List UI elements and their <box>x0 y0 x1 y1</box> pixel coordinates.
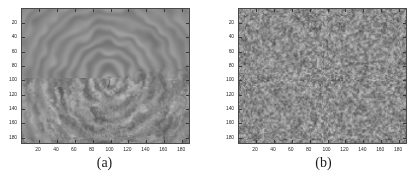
y-tick-mark-right <box>403 80 406 81</box>
y-tick-mark-right <box>403 37 406 38</box>
x-tick-mark <box>345 140 346 143</box>
y-tick-label: 100 <box>9 77 17 82</box>
x-tick-mark-top <box>363 9 364 12</box>
x-tick-mark <box>381 140 382 143</box>
y-tick-mark-right <box>403 138 406 139</box>
x-tick-label: 140 <box>141 146 149 152</box>
y-tick-mark <box>239 95 242 96</box>
x-tick-mark-top <box>111 9 112 12</box>
y-tick-label: 40 <box>12 34 17 39</box>
x-tick-mark <box>328 140 329 143</box>
x-tick-label: 40 <box>53 146 58 152</box>
y-tick-mark-right <box>186 80 189 81</box>
y-tick-mark <box>22 138 25 139</box>
x-tick-mark <box>146 140 147 143</box>
x-tick-mark <box>111 140 112 143</box>
x-tick-mark-top <box>128 9 129 12</box>
x-tick-mark <box>75 140 76 143</box>
x-tick-mark <box>128 140 129 143</box>
x-tick-label: 100 <box>105 146 113 152</box>
y-tick-mark <box>22 52 25 53</box>
x-tick-mark-top <box>274 9 275 12</box>
x-tick-label: 60 <box>71 146 76 152</box>
y-tick-mark <box>239 52 242 53</box>
x-tick-label: 120 <box>123 146 131 152</box>
x-tick-mark-top <box>93 9 94 12</box>
y-tick-mark-right <box>403 66 406 67</box>
y-tick-mark <box>22 23 25 24</box>
y-tick-label: 120 <box>226 91 234 96</box>
x-tick-mark <box>39 140 40 143</box>
y-tick-mark-right <box>186 95 189 96</box>
figure-root: 20406080100120140160180 2040608010012014… <box>0 0 418 181</box>
y-tick-label: 40 <box>229 34 234 39</box>
x-tick-mark <box>310 140 311 143</box>
panel-b: 20406080100120140160180 2040608010012014… <box>209 0 418 181</box>
y-tick-mark <box>239 109 242 110</box>
x-tick-mark-top <box>57 9 58 12</box>
y-tick-label: 80 <box>12 62 17 67</box>
y-tick-mark <box>22 123 25 124</box>
y-tick-mark-right <box>186 23 189 24</box>
x-tick-label: 80 <box>306 146 311 152</box>
y-axis-labels-b: 20406080100120140160180 <box>217 8 236 144</box>
y-tick-mark <box>239 66 242 67</box>
y-tick-mark <box>239 23 242 24</box>
texture-image-a <box>22 9 189 143</box>
panel-caption-a: (a) <box>0 154 209 172</box>
x-tick-mark <box>57 140 58 143</box>
y-tick-mark-right <box>403 123 406 124</box>
y-tick-label: 60 <box>229 48 234 53</box>
y-tick-mark-right <box>186 123 189 124</box>
x-tick-mark-top <box>39 9 40 12</box>
x-tick-label: 60 <box>288 146 293 152</box>
x-tick-label: 40 <box>270 146 275 152</box>
y-tick-label: 140 <box>226 106 234 111</box>
x-tick-mark-top <box>399 9 400 12</box>
y-tick-label: 180 <box>226 134 234 139</box>
x-tick-mark <box>93 140 94 143</box>
y-tick-mark-right <box>186 66 189 67</box>
y-tick-label: 160 <box>9 120 17 125</box>
x-tick-label: 20 <box>35 146 40 152</box>
panel-caption-b: (b) <box>219 154 418 172</box>
y-tick-label: 160 <box>226 120 234 125</box>
x-tick-mark-top <box>292 9 293 12</box>
x-tick-mark-top <box>182 9 183 12</box>
y-tick-label: 100 <box>226 77 234 82</box>
x-tick-label: 160 <box>159 146 167 152</box>
x-tick-mark <box>363 140 364 143</box>
x-tick-mark <box>256 140 257 143</box>
x-tick-mark-top <box>328 9 329 12</box>
y-tick-mark <box>22 109 25 110</box>
x-tick-label: 180 <box>177 146 185 152</box>
panel-a: 20406080100120140160180 2040608010012014… <box>0 0 209 181</box>
x-tick-label: 20 <box>252 146 257 152</box>
axes-a <box>21 8 190 144</box>
x-tick-mark <box>399 140 400 143</box>
y-tick-mark-right <box>403 109 406 110</box>
y-tick-mark <box>22 95 25 96</box>
x-tick-mark-top <box>164 9 165 12</box>
x-tick-mark <box>164 140 165 143</box>
x-tick-label: 120 <box>340 146 348 152</box>
x-tick-mark-top <box>146 9 147 12</box>
x-tick-mark-top <box>381 9 382 12</box>
y-tick-label: 20 <box>12 19 17 24</box>
axes-b <box>238 8 407 144</box>
y-tick-mark <box>22 80 25 81</box>
x-tick-mark <box>274 140 275 143</box>
x-tick-mark-top <box>310 9 311 12</box>
y-tick-mark <box>239 37 242 38</box>
x-tick-label: 160 <box>376 146 384 152</box>
y-tick-label: 140 <box>9 106 17 111</box>
x-tick-mark <box>292 140 293 143</box>
y-tick-label: 80 <box>229 62 234 67</box>
texture-image-b <box>239 9 406 143</box>
y-tick-mark-right <box>186 37 189 38</box>
x-tick-mark-top <box>256 9 257 12</box>
y-tick-mark-right <box>403 52 406 53</box>
y-tick-label: 180 <box>9 134 17 139</box>
y-tick-label: 60 <box>12 48 17 53</box>
x-tick-label: 80 <box>89 146 94 152</box>
